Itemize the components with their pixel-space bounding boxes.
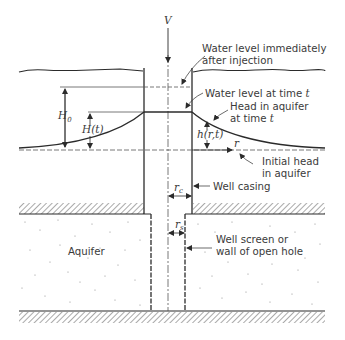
well-casing-label: Well casing	[213, 181, 271, 192]
slug-test-diagram: V H0 H(t) h(r,t) r rc	[0, 0, 345, 340]
water-level-immediate-label: Water level immediately	[202, 43, 326, 54]
hrt-label: h(r,t)	[197, 128, 223, 140]
injection-volume-label: V	[164, 14, 173, 26]
H0-label: H0	[57, 109, 72, 124]
rs-label: rs	[175, 218, 184, 232]
aquifer-label: Aquifer	[68, 246, 105, 257]
water-level-time-t-label: Water level at time t	[205, 88, 311, 99]
well-screen-label-2: wall of open hole	[216, 246, 303, 257]
aquifer-sand-texture	[21, 219, 320, 305]
upper-confining-layer	[19, 203, 325, 214]
ground-surface	[19, 69, 325, 72]
water-level-immediate-label-2: after injection	[202, 55, 273, 66]
initial-head-label: Initial head	[262, 156, 319, 167]
r-label: r	[234, 137, 240, 149]
head-in-aquifer-label-2: at time t	[230, 113, 275, 124]
well-screen-label: Well screen or	[216, 234, 289, 245]
rc-label: rc	[174, 181, 183, 195]
head-in-aquifer-label: Head in aquifer	[230, 101, 309, 112]
Ht-label: H(t)	[81, 123, 104, 135]
lower-confining-layer	[19, 311, 325, 323]
initial-head-label-2: in aquifer	[262, 168, 311, 179]
